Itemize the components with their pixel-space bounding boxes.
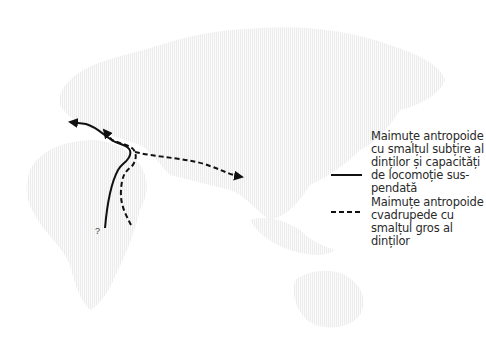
legend-dashed-line-4: dinților — [371, 235, 486, 248]
australia-landmass — [294, 271, 364, 328]
legend-item-solid: Maimuțe antropoide cu smalțul subțire al… — [371, 130, 486, 195]
africa-landmass — [27, 140, 147, 310]
se-asia-landmass — [250, 218, 335, 255]
origin-question-mark: ? — [95, 226, 100, 236]
legend-solid-line-5: pendată — [371, 182, 486, 195]
legend-item-dashed: Maimuțe antropoide cvadrupede cu smalțul… — [371, 196, 486, 248]
